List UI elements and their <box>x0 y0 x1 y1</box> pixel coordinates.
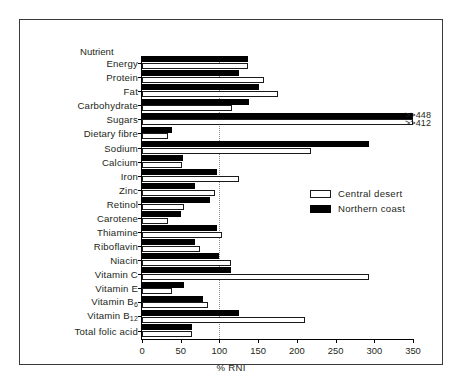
y-axis-label-niacin: Niacin <box>110 255 138 266</box>
legend-swatch-northern-coast <box>310 205 331 213</box>
legend-label-central-desert: Central desert <box>338 188 402 199</box>
x-axis-tick-label-200: 200 <box>289 345 305 356</box>
x-axis-tick-label-50: 50 <box>175 345 185 356</box>
bar-group-total-folic-acid: Total folic acid <box>142 324 413 338</box>
y-axis-label-dietary-fibre: Dietary fibre <box>84 128 138 139</box>
y-axis-label-carotene: Carotene <box>97 212 138 223</box>
y-axis-label-carbohydrate: Carbohydrate <box>77 100 138 111</box>
chart-figure: Nutrient EnergyProteinFatCarbohydrateSug… <box>0 0 462 384</box>
bar-northern-coast-thiamine <box>142 225 217 231</box>
bar-northern-coast-vitamin-c <box>142 267 231 273</box>
bar-group-thiamine: Thiamine <box>142 225 413 239</box>
y-axis-label-iron: Iron <box>121 170 138 181</box>
bar-group-energy: Energy <box>142 56 413 70</box>
bar-central-desert-thiamine <box>142 232 222 238</box>
bar-central-desert-riboflavin <box>142 246 200 252</box>
bar-northern-coast-carotene <box>142 211 181 217</box>
y-axis-label-thiamine: Thiamine <box>97 227 138 238</box>
bar-group-iron: Iron <box>142 169 413 183</box>
annotation-sugars-central-desert: >>412 <box>405 118 431 128</box>
chart-legend: Central desert Northern coast <box>310 186 405 216</box>
bar-group-dietary-fibre: Dietary fibre <box>142 126 413 140</box>
y-axis-label-riboflavin: Riboflavin <box>94 241 138 252</box>
x-axis-tick-label-350: 350 <box>405 345 421 356</box>
y-axis-label-vitamin-c: Vitamin C <box>95 269 138 280</box>
bar-group-fat: Fat <box>142 84 413 98</box>
bar-central-desert-zinc <box>142 190 215 196</box>
x-axis-tick <box>297 339 298 343</box>
y-axis-label-sodium: Sodium <box>104 142 138 153</box>
y-axis-label-fat: Fat <box>124 86 138 97</box>
bar-group-vitamin-e: Vitamin E <box>142 281 413 295</box>
bar-northern-coast-total-folic-acid <box>142 324 192 330</box>
x-axis-title: % RNI <box>20 362 442 373</box>
bar-northern-coast-zinc <box>142 183 195 189</box>
bar-northern-coast-vitamin-b12 <box>142 310 239 316</box>
chart-frame: Nutrient EnergyProteinFatCarbohydrateSug… <box>19 19 443 365</box>
bar-central-desert-carotene <box>142 218 168 224</box>
y-axis-label-calcium: Calcium <box>102 156 138 167</box>
bar-central-desert-sodium <box>142 148 311 154</box>
x-axis-tick <box>374 339 375 343</box>
x-axis-tick <box>258 339 259 343</box>
bar-northern-coast-iron <box>142 169 217 175</box>
bar-northern-coast-sugars <box>142 113 413 119</box>
bar-group-vitamin-b6: Vitamin B6 <box>142 295 413 309</box>
bar-northern-coast-dietary-fibre <box>142 127 172 133</box>
y-axis-label-zinc: Zinc <box>119 184 138 195</box>
y-axis-label-sugars: Sugars <box>106 114 138 125</box>
x-axis-tick-label-150: 150 <box>250 345 266 356</box>
y-axis-label-protein: Protein <box>106 72 138 83</box>
x-axis-tick <box>142 339 143 343</box>
bar-northern-coast-calcium <box>142 155 183 161</box>
bar-central-desert-niacin <box>142 260 231 266</box>
bar-group-riboflavin: Riboflavin <box>142 239 413 253</box>
bar-group-niacin: Niacin <box>142 253 413 267</box>
bar-northern-coast-carbohydrate <box>142 99 249 105</box>
bar-central-desert-vitamin-c <box>142 274 369 280</box>
y-axis-label-vitamin-b6: Vitamin B6 <box>91 296 138 309</box>
bar-northern-coast-sodium <box>142 141 369 147</box>
x-axis-tick <box>219 339 220 343</box>
legend-swatch-central-desert <box>310 190 331 198</box>
bar-central-desert-dietary-fibre <box>142 133 168 139</box>
bar-central-desert-vitamin-b6 <box>142 302 208 308</box>
y-axis-label-vitamin-e: Vitamin E <box>95 283 138 294</box>
bar-group-carbohydrate: Carbohydrate <box>142 98 413 112</box>
bar-central-desert-energy <box>142 63 248 69</box>
bar-group-vitamin-b12: Vitamin B12 <box>142 309 413 323</box>
bar-northern-coast-retinol <box>142 197 210 203</box>
legend-label-northern-coast: Northern coast <box>338 203 405 214</box>
x-axis-tick-label-0: 0 <box>139 345 144 356</box>
x-axis-tick <box>336 339 337 343</box>
bar-central-desert-iron <box>142 176 239 182</box>
y-axis-label-total-folic-acid: Total folic acid <box>75 325 138 336</box>
bar-northern-coast-riboflavin <box>142 239 195 245</box>
x-axis-tick-label-100: 100 <box>212 345 228 356</box>
bar-northern-coast-vitamin-e <box>142 282 184 288</box>
bar-northern-coast-fat <box>142 84 259 90</box>
bar-northern-coast-vitamin-b6 <box>142 296 203 302</box>
bar-group-sodium: Sodium <box>142 140 413 154</box>
bar-central-desert-carbohydrate <box>142 105 232 111</box>
bar-northern-coast-energy <box>142 56 248 62</box>
y-axis-label-energy: Energy <box>106 58 138 69</box>
bar-group-protein: Protein <box>142 70 413 84</box>
bar-central-desert-protein <box>142 77 264 83</box>
x-axis-line <box>142 339 414 340</box>
legend-item-northern-coast: Northern coast <box>310 201 405 216</box>
bar-central-desert-calcium <box>142 162 182 168</box>
y-axis-label-retinol: Retinol <box>107 198 138 209</box>
bar-northern-coast-protein <box>142 70 239 76</box>
x-axis-tick-label-300: 300 <box>366 345 382 356</box>
bar-central-desert-total-folic-acid <box>142 331 192 337</box>
bar-group-calcium: Calcium <box>142 155 413 169</box>
y-axis-label-vitamin-b12: Vitamin B12 <box>87 310 138 323</box>
legend-item-central-desert: Central desert <box>310 186 405 201</box>
bar-central-desert-vitamin-b12 <box>142 317 305 323</box>
bar-group-sugars: Sugars <box>142 112 413 126</box>
bar-central-desert-sugars <box>142 119 413 125</box>
bar-central-desert-retinol <box>142 204 184 210</box>
bar-group-vitamin-c: Vitamin C <box>142 267 413 281</box>
x-axis-tick-label-250: 250 <box>328 345 344 356</box>
